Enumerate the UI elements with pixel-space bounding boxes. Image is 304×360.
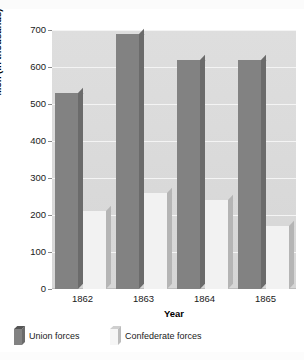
gridline: [52, 30, 296, 31]
bar-side-face: [228, 195, 233, 289]
bar-side-face: [200, 54, 205, 289]
legend-swatch-union-icon: [14, 326, 22, 345]
bar-front-face: [116, 34, 139, 289]
plot-area: [52, 30, 296, 289]
y-axis-tick-label: 600: [4, 62, 46, 71]
y-axis-tick-label: 500: [4, 99, 46, 108]
y-axis-tick-label: 200: [4, 210, 46, 219]
bar-front-face: [266, 226, 289, 289]
y-axis-tick-label: 400: [4, 136, 46, 145]
bar-union-1863: [116, 34, 139, 289]
legend-item-confederate[interactable]: Confederate forces: [110, 326, 202, 345]
y-axis-tick-label: 0: [4, 284, 46, 293]
bar-front-face: [144, 193, 167, 289]
bar-confederate-1863: [144, 193, 167, 289]
y-axis-title: Men (in thousands): [0, 0, 3, 112]
legend-item-union[interactable]: Union forces: [14, 326, 80, 345]
bar-front-face: [83, 211, 106, 289]
x-axis-tick-label: 1864: [174, 293, 235, 304]
chart-figure: Men (in thousands) 010020030040050060070…: [0, 0, 304, 360]
bar-front-face: [205, 200, 228, 289]
y-axis-tick-label: 100: [4, 247, 46, 256]
bar-union-1864: [177, 60, 200, 289]
y-axis-tick-mark: [48, 289, 52, 290]
bar-side-face: [289, 221, 294, 289]
legend-label-confederate: Confederate forces: [125, 331, 202, 341]
bar-union-1862: [55, 93, 78, 289]
bottom-strip: [0, 352, 304, 360]
bar-front-face: [177, 60, 200, 289]
legend-swatch-confederate-icon: [110, 326, 118, 345]
bar-confederate-1865: [266, 226, 289, 289]
bar-union-1865: [238, 60, 261, 289]
chart-title-strip: [0, 0, 304, 9]
x-axis-tick-label: 1863: [113, 293, 174, 304]
bar-confederate-1864: [205, 200, 228, 289]
bar-front-face: [55, 93, 78, 289]
legend-label-union: Union forces: [29, 331, 80, 341]
bar-side-face: [167, 188, 172, 289]
chart-legend: Union forces Confederate forces: [0, 326, 304, 352]
bar-side-face: [106, 206, 111, 289]
y-axis-tick-label: 700: [4, 25, 46, 34]
x-axis-title: Year: [52, 308, 296, 319]
bar-side-face: [78, 88, 83, 289]
y-axis-tick-label: 300: [4, 173, 46, 182]
bar-side-face: [261, 54, 266, 289]
x-axis-tick-label: 1862: [52, 293, 113, 304]
x-axis-tick-label: 1865: [235, 293, 296, 304]
bar-side-face: [139, 29, 144, 289]
bar-front-face: [238, 60, 261, 289]
bar-confederate-1862: [83, 211, 106, 289]
